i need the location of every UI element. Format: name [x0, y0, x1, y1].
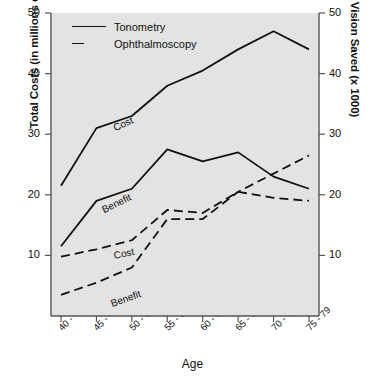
legend-label-ophthalmoscopy: Ophthalmoscopy: [114, 38, 197, 50]
plot-area: [0, 0, 385, 380]
legend-item-ophthalmoscopy: Ophthalmoscopy: [72, 35, 197, 52]
legend-label-tonometry: Tonometry: [114, 21, 165, 33]
legend: Tonometry Ophthalmoscopy: [72, 18, 197, 52]
legend-solid-line-icon: [72, 22, 106, 32]
legend-dashed-line-icon: [72, 39, 106, 49]
chart-root: Total Costs (in millions of dollars) Yea…: [0, 0, 385, 380]
legend-item-tonometry: Tonometry: [72, 18, 197, 35]
